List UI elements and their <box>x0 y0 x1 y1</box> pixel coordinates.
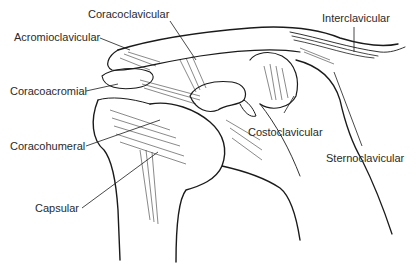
label-interclavicular: Interclavicular <box>322 12 390 24</box>
leader-costoclavicular <box>284 96 294 113</box>
label-coracohumeral: Coracohumeral <box>10 140 85 152</box>
leader-coracoclavicular <box>170 21 196 60</box>
label-acromioclavicular: Acromioclavicular <box>14 31 100 43</box>
leader-capsular <box>82 152 158 208</box>
clavicle-bone <box>118 27 398 50</box>
leader-sternoclavicular <box>334 72 362 146</box>
leader-acromioclavicular <box>100 38 130 50</box>
label-sternoclavicular: Sternoclavicular <box>326 152 404 164</box>
label-capsular: Capsular <box>35 202 79 214</box>
label-costoclavicular: Costoclavicular <box>248 126 323 138</box>
label-coracoclavicular: Coracoclavicular <box>88 8 169 20</box>
label-coracoacromial: Coracoacromial <box>10 85 87 97</box>
leader-coracohumeral <box>86 120 160 146</box>
shoulder-ligaments-diagram: Coracoclavicular Acromioclavicular Inter… <box>0 0 417 274</box>
